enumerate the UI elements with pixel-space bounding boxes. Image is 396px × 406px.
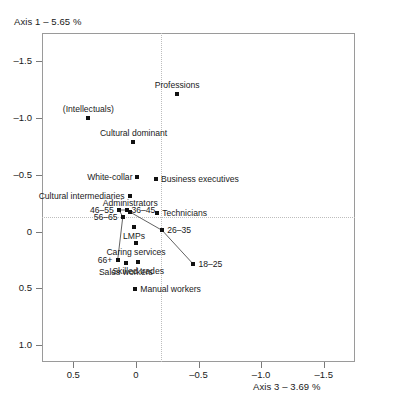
y-tick-label: –0.5 xyxy=(2,169,32,180)
data-point-label: Manual workers xyxy=(140,284,201,294)
y-tick-label: 0 xyxy=(2,226,32,237)
y-tick xyxy=(36,288,42,289)
x-tick-label: 0 xyxy=(116,369,156,380)
age-group-marker[interactable] xyxy=(116,258,120,262)
data-point-marker[interactable] xyxy=(132,225,136,229)
y-tick-label: –1.0 xyxy=(2,112,32,123)
age-group-marker[interactable] xyxy=(160,228,164,232)
x-tick xyxy=(261,362,262,368)
data-point-marker[interactable] xyxy=(133,287,137,291)
data-point-marker[interactable] xyxy=(124,261,128,265)
data-point-label: Cultural dominant xyxy=(100,128,167,138)
x-tick xyxy=(324,362,325,368)
y-tick xyxy=(36,232,42,233)
data-point-marker[interactable] xyxy=(131,140,135,144)
x-tick xyxy=(73,362,74,368)
data-point-marker[interactable] xyxy=(134,241,138,245)
y-tick xyxy=(36,175,42,176)
y-axis-title: Axis 1 – 5.65 % xyxy=(14,16,82,27)
x-tick xyxy=(136,362,137,368)
data-point-label: LMPs xyxy=(123,231,145,241)
x-tick xyxy=(199,362,200,368)
data-point-label: Technicians xyxy=(162,208,207,218)
chart-canvas: Axis 1 – 5.65 % –1.5–1.0–0.500.51.0 0.50… xyxy=(0,0,396,406)
data-point-marker[interactable] xyxy=(86,116,90,120)
age-group-label: 36–45 xyxy=(132,205,156,215)
x-tick-label: –0.5 xyxy=(179,369,219,380)
x-tick-label: –1.5 xyxy=(304,369,344,380)
data-point-label: Caring services xyxy=(106,247,165,257)
age-group-marker[interactable] xyxy=(125,208,129,212)
data-point-marker[interactable] xyxy=(135,175,139,179)
y-tick-label: –1.5 xyxy=(2,55,32,66)
x-tick-label: 0.5 xyxy=(53,369,93,380)
age-group-label: 18–25 xyxy=(198,259,222,269)
data-point-marker[interactable] xyxy=(175,92,179,96)
data-point-label: White-collar xyxy=(87,172,132,182)
data-point-label: Skilled trades xyxy=(112,266,164,276)
data-point-marker[interactable] xyxy=(155,211,159,215)
data-point-label: Professions xyxy=(155,80,200,90)
y-tick xyxy=(36,118,42,119)
x-axis-title: Axis 3 – 3.69 % xyxy=(253,381,321,392)
data-point-marker[interactable] xyxy=(136,260,140,264)
data-point-marker[interactable] xyxy=(154,177,158,181)
y-tick xyxy=(36,61,42,62)
age-group-label: 66+ xyxy=(98,255,113,265)
age-group-label: 56–65 xyxy=(94,212,118,222)
y-tick-label: 0.5 xyxy=(2,282,32,293)
age-group-marker[interactable] xyxy=(121,215,125,219)
data-point-label: Business executives xyxy=(161,174,239,184)
x-tick-label: –1.0 xyxy=(241,369,281,380)
data-point-label: (Intellectuals) xyxy=(63,104,114,114)
y-tick-label: 1.0 xyxy=(2,339,32,350)
age-group-marker[interactable] xyxy=(191,262,195,266)
y-tick xyxy=(36,345,42,346)
age-group-label: 26–35 xyxy=(167,225,191,235)
